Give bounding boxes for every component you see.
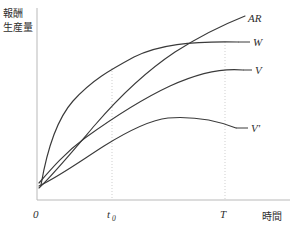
curve-label-v-prime: V' (251, 122, 261, 134)
x-tick-T: T (220, 208, 227, 220)
x-axis-title: 時間 (262, 211, 282, 222)
curve-label-w: W (253, 36, 263, 48)
chart-canvas: AR W V V' 0 t 0 T 時間 (0, 0, 295, 232)
curve-label-v: V (255, 64, 263, 76)
chart-figure: 報酬 生産量 AR W V V' 0 t 0 T 時間 (0, 0, 295, 232)
curve-label-ar: AR (247, 12, 262, 24)
x-tick-t0-subscript: 0 (112, 214, 116, 223)
curve-w (41, 42, 238, 185)
x-tick-t0-base: t (107, 208, 111, 220)
x-tick-origin: 0 (33, 208, 39, 220)
